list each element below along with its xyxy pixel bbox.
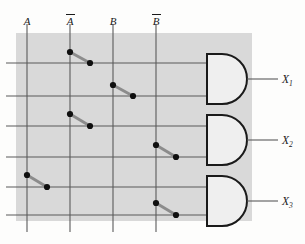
connection-dot-source-c2[interactable]	[110, 82, 116, 88]
input-column-label-Abar: A	[61, 14, 79, 27]
gate3-and-gate-body[interactable]	[207, 176, 247, 226]
gate1-output-label: X1	[282, 74, 293, 88]
connection-dot-source-c3[interactable]	[67, 111, 73, 117]
gate2-and-gate-body[interactable]	[207, 115, 247, 165]
pla-diagram-canvas	[0, 0, 305, 244]
input-column-glyph-Abar: A	[61, 16, 79, 27]
input-column-glyph-A: A	[18, 16, 36, 27]
input-column-glyph-Bbar: B	[147, 16, 165, 27]
gate1-output-label-base: X	[282, 73, 289, 85]
input-column-label-A: A	[18, 14, 36, 27]
gate3-output-label-base: X	[282, 195, 289, 207]
connection-dot-source-c1[interactable]	[67, 49, 73, 55]
connection-dot-target-c6[interactable]	[173, 212, 179, 218]
input-column-label-B: B	[104, 14, 122, 27]
and-gate-layer	[207, 54, 278, 226]
gate2-output-label-subscript: 2	[289, 140, 293, 149]
connection-dot-source-c5[interactable]	[24, 172, 30, 178]
input-column-glyph-B: B	[104, 16, 122, 27]
gate2-output-label-base: X	[282, 134, 289, 146]
connection-dot-source-c4[interactable]	[153, 142, 159, 148]
connection-dot-target-c5[interactable]	[44, 184, 50, 190]
gate1-and-gate-body[interactable]	[207, 54, 247, 104]
connection-dot-target-c4[interactable]	[173, 154, 179, 160]
gate3-output-label: X3	[282, 196, 293, 210]
connection-dot-target-c2[interactable]	[130, 93, 136, 99]
input-column-label-Bbar: B	[147, 14, 165, 27]
connection-dot-target-c3[interactable]	[87, 123, 93, 129]
connection-dot-target-c1[interactable]	[87, 60, 93, 66]
connection-dot-source-c6[interactable]	[153, 200, 159, 206]
pla-diagram-root: AABBX1X2X3	[0, 0, 305, 244]
gate3-output-label-subscript: 3	[289, 201, 293, 210]
gate2-output-label: X2	[282, 135, 293, 149]
gate1-output-label-subscript: 1	[289, 79, 293, 88]
